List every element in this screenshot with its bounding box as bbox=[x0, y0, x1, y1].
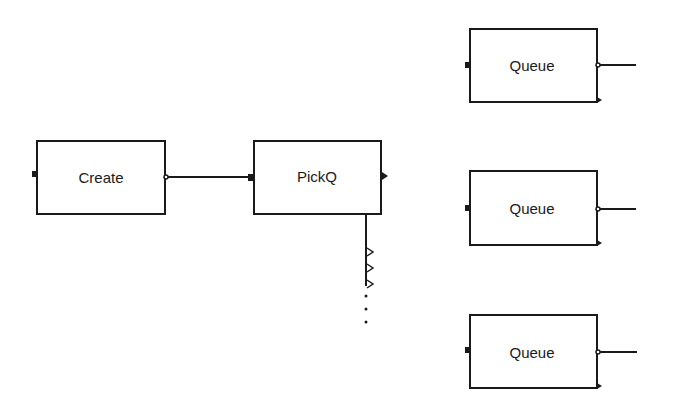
queue-secondary-output-arrow-icon[interactable] bbox=[597, 240, 602, 246]
queue-secondary-output-arrow-icon[interactable] bbox=[597, 97, 602, 103]
pickq-input-port[interactable] bbox=[248, 174, 254, 181]
pickq-output-arrow-icon[interactable] bbox=[382, 172, 388, 180]
create-output-port[interactable] bbox=[164, 175, 168, 179]
pickq-label: PickQ bbox=[297, 168, 337, 185]
queue-input-port[interactable] bbox=[465, 62, 470, 68]
queue-input-port[interactable] bbox=[465, 347, 470, 353]
create-label: Create bbox=[78, 169, 123, 186]
ellipsis-icon bbox=[365, 295, 368, 324]
queue-label-1: Queue bbox=[509, 57, 554, 74]
diagram-canvas: Create PickQ Queue Queue Queue bbox=[0, 0, 678, 409]
queue-label-2: Queue bbox=[509, 200, 554, 217]
queue-output-port[interactable] bbox=[596, 350, 600, 354]
queue-output-port[interactable] bbox=[596, 207, 600, 211]
queue-secondary-output-arrow-icon[interactable] bbox=[597, 383, 602, 389]
queue-output-port[interactable] bbox=[596, 63, 600, 67]
output-port-arrow-icon bbox=[367, 280, 373, 288]
queue-input-port[interactable] bbox=[465, 205, 470, 211]
pickq-output-ports[interactable] bbox=[367, 248, 373, 288]
queue-label-3: Queue bbox=[509, 344, 554, 361]
create-input-port[interactable] bbox=[32, 171, 37, 177]
output-port-arrow-icon bbox=[367, 248, 373, 256]
output-port-arrow-icon bbox=[367, 264, 373, 272]
